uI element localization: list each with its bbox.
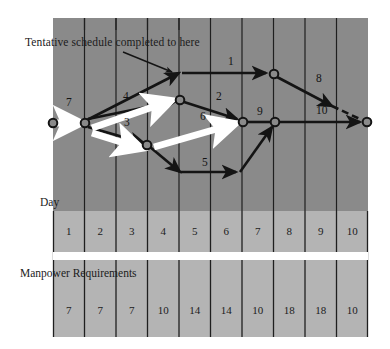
manpower-cell: 7 [53, 304, 85, 316]
day-cell: 6 [211, 225, 243, 237]
day-cell: 8 [274, 225, 306, 237]
day-cell: 7 [242, 225, 274, 237]
manpower-cell: 14 [179, 304, 211, 316]
edge-label-4: 4 [123, 90, 129, 102]
edge-label-3: 3 [124, 116, 130, 128]
manpower-cell: 18 [274, 304, 306, 316]
manpower-cell: 10 [148, 304, 180, 316]
edge-bottom-up-n7 [240, 127, 272, 172]
edge-label-7: 7 [66, 96, 72, 108]
tentative-schedule-annotation: Tentative schedule completed to here [25, 36, 200, 48]
network-top-ticks [85, 18, 180, 30]
day-cell: 9 [305, 225, 337, 237]
node-n7 [271, 118, 280, 127]
edge-label-5: 5 [202, 156, 208, 168]
manpower-cell: 10 [337, 304, 369, 316]
manpower-cell: 7 [85, 304, 117, 316]
edge-label-2: 2 [216, 90, 222, 102]
node-n8 [363, 118, 372, 127]
manpower-cell: 10 [242, 304, 274, 316]
manpower-cell: 18 [305, 304, 337, 316]
day-cell: 1 [53, 225, 85, 237]
edge-label-8: 8 [316, 72, 322, 84]
node-n2 [81, 119, 90, 128]
node-n3 [176, 96, 185, 105]
node-n1 [49, 119, 58, 128]
day-cell: 5 [179, 225, 211, 237]
node-n5 [239, 118, 248, 127]
node-n4 [143, 141, 152, 150]
edge-label-10: 10 [316, 104, 328, 116]
day-row-label: Day [40, 196, 59, 208]
manpower-row-label: Manpower Requirements [20, 267, 137, 279]
manpower-cell: 14 [211, 304, 243, 316]
edge-label-6: 6 [200, 110, 206, 122]
edge-n4-bottom [150, 147, 180, 172]
edge-label-9: 9 [257, 105, 263, 117]
node-n6 [270, 70, 279, 79]
row-separator-band [53, 252, 368, 260]
edge-label-1: 1 [228, 55, 234, 67]
day-cell: 3 [116, 225, 148, 237]
highlight-n4-n5 [154, 124, 234, 147]
day-cell: 10 [337, 225, 369, 237]
day-cell: 4 [148, 225, 180, 237]
manpower-cell: 7 [116, 304, 148, 316]
figure-graphics-layer [0, 0, 390, 349]
figure-root: Tentative schedule completed to here Day… [0, 0, 390, 349]
day-cell: 2 [85, 225, 117, 237]
